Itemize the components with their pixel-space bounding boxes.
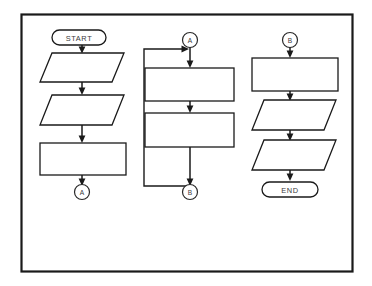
parallelogram-shape: [40, 53, 124, 82]
node-r-io-2: [252, 140, 336, 170]
arrow-head-icon: [79, 136, 86, 144]
node-start: START: [52, 30, 106, 45]
arrow-connB-to-rproc1: [287, 48, 294, 59]
connector-label: B: [188, 189, 193, 196]
arrow-head-icon: [287, 174, 294, 182]
connector-label: A: [80, 189, 85, 196]
connector-label: A: [188, 37, 193, 44]
arrow-head-icon: [187, 61, 194, 69]
parallelogram-shape: [252, 100, 336, 130]
arrow-io2-to-proc1: [79, 125, 86, 143]
parallelogram-shape: [252, 140, 336, 170]
process-rectangle-shape: [145, 113, 234, 147]
arrow-head-icon: [187, 106, 194, 114]
node-m-proc-2: [145, 113, 234, 147]
arrow-rio2-to-end: [287, 170, 294, 181]
node-r-proc-1: [252, 58, 338, 91]
arrow-head-icon: [79, 88, 86, 96]
node-end: END: [262, 182, 318, 197]
node-l-io-1: [40, 53, 124, 82]
connector-label: B: [288, 37, 293, 44]
end-label: END: [281, 186, 298, 195]
node-m-conn-out: B: [183, 185, 198, 200]
node-l-io-2: [40, 95, 124, 125]
arrow-mproc1-to-mproc2: [187, 101, 194, 113]
node-m-conn-in: A: [183, 33, 198, 48]
process-rectangle-shape: [252, 58, 338, 91]
arrow-mproc2-to-connB: [187, 147, 194, 186]
arrow-connA-to-mproc1: [187, 48, 194, 69]
start-label: START: [66, 34, 93, 43]
node-m-proc-1: [145, 68, 234, 101]
node-r-conn-in: B: [283, 33, 298, 48]
arrow-io1-to-io2: [79, 82, 86, 95]
process-rectangle-shape: [40, 143, 126, 175]
flowchart-canvas: START: [0, 0, 372, 286]
arrow-head-icon: [287, 51, 294, 59]
parallelogram-shape: [40, 95, 124, 125]
node-l-conn-out: A: [75, 185, 90, 200]
node-l-proc-1: [40, 143, 126, 175]
arrow-start-to-io1: [79, 45, 86, 54]
node-r-io-1: [252, 100, 336, 130]
process-rectangle-shape: [145, 68, 234, 101]
flowchart-diagram: START: [0, 0, 372, 286]
